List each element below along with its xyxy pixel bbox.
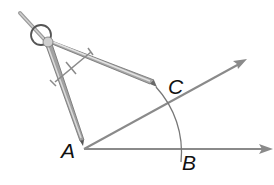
diagram-canvas xyxy=(0,0,274,185)
ray-ab xyxy=(84,144,273,154)
compass-construction-diagram: A B C xyxy=(0,0,274,185)
ray-ac xyxy=(84,59,247,149)
point-label-b: B xyxy=(182,152,196,173)
arrowhead-icon xyxy=(233,59,247,69)
point-label-a: A xyxy=(61,140,75,161)
point-label-c: C xyxy=(168,76,183,97)
compass-icon xyxy=(20,13,157,146)
